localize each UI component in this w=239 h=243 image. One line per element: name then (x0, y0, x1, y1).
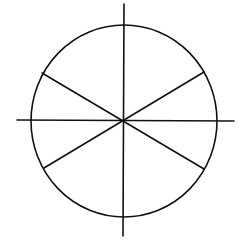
horizontal-axis-line (17, 120, 234, 121)
circle-sector-diagram (0, 0, 239, 243)
